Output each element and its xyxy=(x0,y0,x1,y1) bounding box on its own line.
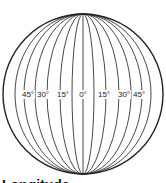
longitude-label: 15° xyxy=(97,90,111,99)
longitude-label: 45° xyxy=(21,90,35,99)
longitude-label: 15° xyxy=(56,90,70,99)
longitude-label: 45° xyxy=(132,90,146,99)
longitude-label: 0° xyxy=(78,90,88,99)
diagram-title: Longitude xyxy=(2,177,70,183)
longitude-label: 30° xyxy=(36,90,50,99)
longitude-label: 30° xyxy=(117,90,131,99)
